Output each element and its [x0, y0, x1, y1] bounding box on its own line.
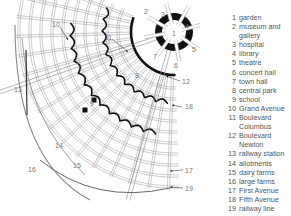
legend-item-6: 6 concert hall [226, 68, 291, 77]
legend-item-12: 12 Boulevard Newton [226, 131, 291, 149]
legend-number: 18 [226, 195, 236, 204]
legend-item-7: 7 town hall [226, 77, 291, 86]
legend: 1 garden 2 museum and gallery 3 hospital… [226, 13, 291, 213]
callout-16: 16 [28, 166, 36, 173]
legend-item-16: 16 large farms [226, 177, 291, 186]
callout-5: 5 [192, 46, 196, 53]
legend-label: dairy farms [239, 168, 291, 177]
legend-item-2: 2 museum and gallery [226, 22, 291, 40]
legend-label: large farms [239, 177, 291, 186]
legend-label: theatre [239, 58, 291, 67]
legend-item-8: 8 central park [226, 86, 291, 95]
legend-label: Grand Avenue [239, 104, 291, 113]
callout-4: 4 [185, 23, 189, 30]
legend-item-1: 1 garden [226, 13, 291, 22]
legend-label: library [239, 49, 291, 58]
callout-3: 3 [161, 11, 165, 18]
callout-18: 18 [185, 103, 193, 110]
legend-number: 4 [226, 49, 236, 58]
legend-item-18: 18 Fifth Avenue [226, 195, 291, 204]
legend-item-15: 15 dairy farms [226, 168, 291, 177]
legend-number: 16 [226, 177, 236, 186]
callout-8: 8 [135, 72, 139, 79]
legend-number: 5 [226, 58, 236, 67]
callout-17: 17 [185, 167, 193, 174]
legend-item-11: 11 Boulevard Columbus [226, 113, 291, 131]
legend-label: garden [239, 13, 291, 22]
legend-number: 7 [226, 77, 236, 86]
legend-number: 6 [226, 68, 236, 77]
legend-number: 3 [226, 40, 236, 49]
legend-label: hospital [239, 40, 291, 49]
callout-9: 9 [90, 100, 94, 107]
callout-13: 13 [14, 86, 22, 93]
callout-11: 11 [105, 34, 112, 41]
callout-10: 10 [52, 21, 60, 28]
legend-number: 10 [226, 104, 236, 113]
legend-item-14: 14 allotments [226, 159, 291, 168]
legend-label: Boulevard Columbus [239, 113, 291, 131]
legend-label: school [239, 95, 291, 104]
callout-7: 7 [153, 53, 157, 60]
legend-item-19: 19 railway line [226, 204, 291, 213]
legend-number: 13 [226, 149, 236, 158]
legend-number: 9 [226, 95, 236, 104]
legend-label: museum and gallery [239, 22, 291, 40]
legend-item-13: 13 railway station [226, 149, 291, 158]
legend-item-17: 17 First Avenue [226, 186, 291, 195]
legend-number: 14 [226, 159, 236, 168]
legend-item-4: 4 library [226, 49, 291, 58]
legend-number: 15 [226, 168, 236, 177]
legend-label: town hall [239, 77, 291, 86]
legend-number: 8 [226, 86, 236, 95]
callout-6: 6 [174, 62, 178, 69]
legend-item-5: 5 theatre [226, 58, 291, 67]
legend-label: First Avenue [239, 186, 291, 195]
legend-label: Fifth Avenue [239, 195, 291, 204]
legend-number: 12 [226, 131, 236, 149]
callout-19: 19 [185, 185, 193, 192]
legend-label: allotments [239, 159, 291, 168]
legend-number: 17 [226, 186, 236, 195]
legend-label: Boulevard Newton [239, 131, 291, 149]
legend-label: railway station [239, 149, 291, 158]
callout-15: 15 [73, 162, 81, 169]
legend-number: 19 [226, 204, 236, 213]
callout-1: 1 [172, 30, 176, 37]
legend-label: railway line [239, 204, 291, 213]
legend-number: 11 [226, 113, 236, 131]
legend-label: central park [239, 86, 291, 95]
callout-2: 2 [144, 8, 148, 15]
legend-item-10: 10 Grand Avenue [226, 104, 291, 113]
legend-item-9: 9 school [226, 95, 291, 104]
legend-number: 1 [226, 13, 236, 22]
legend-item-3: 3 hospital [226, 40, 291, 49]
legend-label: concert hall [239, 68, 291, 77]
callout-12: 12 [182, 78, 190, 85]
legend-number: 2 [226, 22, 236, 40]
callout-14: 14 [55, 142, 63, 149]
city-plan-diagram: 12345678910111213141516171819 [0, 0, 200, 216]
